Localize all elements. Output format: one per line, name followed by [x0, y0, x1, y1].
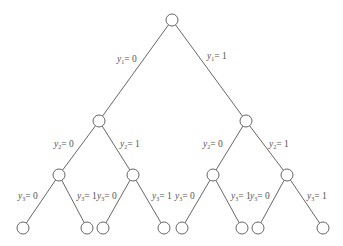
- edge-label: y3= 1: [307, 192, 327, 202]
- edge-label: y3= 1: [77, 192, 97, 202]
- edge-label: y3= 1: [152, 192, 172, 202]
- edge-label: y3= 1: [231, 192, 251, 202]
- tree-edge: [103, 25, 169, 116]
- tree-edge: [176, 25, 243, 116]
- edge-value: = 1: [276, 139, 288, 149]
- edge-value: = 1: [127, 139, 139, 149]
- tree-node-RRR: [317, 222, 329, 234]
- tree-node-LL: [53, 169, 65, 181]
- edge-label: y3= 0: [250, 192, 270, 202]
- edge-label: y2= 0: [203, 140, 223, 150]
- edge-value: = 0: [257, 191, 269, 201]
- edge-value: = 1: [214, 51, 226, 61]
- edges-layer: [26, 25, 319, 223]
- edge-label: y1= 0: [117, 55, 137, 65]
- edge-value: = 0: [25, 191, 37, 201]
- tree-node-R: [240, 115, 252, 127]
- edge-value: = 0: [104, 191, 116, 201]
- edge-label: y2= 0: [54, 140, 74, 150]
- edge-label: y2= 1: [269, 140, 289, 150]
- edge-value: = 0: [210, 139, 222, 149]
- edge-value: = 1: [159, 191, 171, 201]
- tree-node-root: [166, 14, 178, 26]
- edge-label: y2= 1: [120, 140, 140, 150]
- tree-node-RLL: [176, 222, 188, 234]
- edge-label: y1= 1: [207, 52, 227, 62]
- tree-node-LLL: [17, 222, 29, 234]
- edge-label: y3= 0: [97, 192, 117, 202]
- edge-value: = 0: [182, 191, 194, 201]
- edge-value: = 0: [124, 54, 136, 64]
- edge-value: = 0: [61, 139, 73, 149]
- tree-node-L: [93, 115, 105, 127]
- edge-label: y3= 0: [18, 192, 38, 202]
- edge-label: y3= 0: [175, 192, 195, 202]
- tree-node-LRL: [97, 222, 109, 234]
- tree-node-LRR: [158, 222, 170, 234]
- tree-node-LLR: [81, 222, 93, 234]
- edge-value: = 1: [314, 191, 326, 201]
- tree-node-RLR: [236, 222, 248, 234]
- nodes-layer: [17, 14, 329, 234]
- tree-graphic: [0, 0, 343, 246]
- edge-value: = 1: [84, 191, 96, 201]
- tree-node-RRL: [252, 222, 264, 234]
- edge-value: = 1: [238, 191, 250, 201]
- tree-node-RR: [281, 169, 293, 181]
- tree-node-LR: [127, 169, 139, 181]
- tree-node-RL: [207, 169, 219, 181]
